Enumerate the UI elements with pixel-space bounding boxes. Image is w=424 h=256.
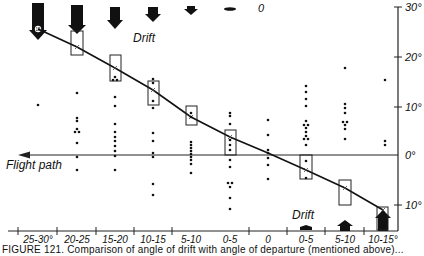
drift-arrow-icon [300,225,312,230]
y-tick-label: 20° [405,51,422,63]
drift-arrow-icon [107,7,123,29]
zero-marker-label: 0 [258,2,264,14]
figure-caption: FIGURE 121. Comparison of angle of drift… [2,244,404,255]
y-tick-label: 10° [405,101,422,113]
figure-canvas: 15 [0,0,424,256]
drift-arrow-icon [224,7,236,11]
y-tick-label: 30° [405,1,422,13]
drift-label-bottom: Drift [292,208,314,222]
y-axis [394,7,402,231]
flight-path-label: Flight path [6,158,62,172]
y-tick-label: 10° [405,199,422,211]
drift-arrow-icon [68,5,86,34]
y-tick-label: 0° [405,149,416,161]
drift-arrow-icon [184,6,198,15]
drift-arrow-icon [337,220,353,231]
scatter-points [37,67,387,211]
flight-path-arrow [18,152,398,159]
drift-label-top: Drift [133,31,155,45]
drift-arrow-icon [145,7,161,22]
mean-trend-line [38,29,383,210]
range-boxes [71,31,388,230]
drift-arrow-icon: 15 [29,3,47,40]
